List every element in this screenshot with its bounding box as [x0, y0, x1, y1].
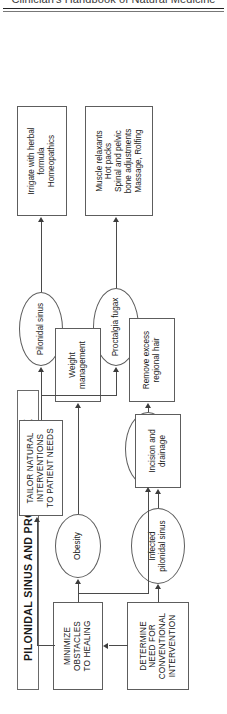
connector-determine-to-minimize: [109, 645, 128, 646]
node-remove-excess-hair-line1: Remove excess: [142, 331, 152, 389]
node-incision-drainage: Incision and drainage: [135, 414, 181, 488]
arrowhead-tailor-to-pilonidal-natural: [38, 367, 44, 372]
arrowhead-tailor-to-proctalgia: [113, 367, 119, 372]
connector-minimize-branch-horizontal: [148, 492, 149, 594]
node-tailor-natural-line1: TAILOR NATURAL: [26, 433, 36, 504]
arrowhead-infected-to-incision: [155, 489, 161, 494]
node-proctalgia-fugax-label: Proctalgia fugax: [111, 298, 121, 357]
connector-minimize-branch-vertical: [78, 593, 148, 594]
node-tailor-natural-line2: INTERVENTIONS: [36, 434, 46, 502]
node-obesity: Obesity: [55, 514, 101, 578]
node-irrigate-herbal: Irrigate with herbal formula Homeopathic…: [17, 106, 67, 216]
node-incision-drainage-line2: drainage: [158, 435, 168, 467]
node-infected-pilonidal-sinus-line2: pilonidal sinus: [158, 520, 168, 571]
connector-pilonidal-hair-to-remove: [148, 408, 149, 412]
arrowhead-minimize-to-pilonidal-hair: [145, 487, 151, 492]
node-irrigate-herbal-line1: Irrigate with herbal: [27, 127, 37, 194]
arrowhead-minimize-to-obesity: [75, 579, 81, 584]
node-proctalgia-treatments-line5: Massage, Rolfing: [133, 129, 143, 192]
node-pilonidal-sinus-natural-label: Pilonidal sinus: [36, 303, 46, 355]
node-minimize-obstacles: MINIMIZE OBSTACLES TO HEALING: [53, 602, 103, 690]
node-proctalgia-treatments-line1: Muscle relaxants: [94, 130, 104, 191]
node-weight-management: Weight management: [55, 328, 101, 402]
connector-pilonidal-natural-to-irrigate: [41, 222, 42, 292]
running-header: Clinician's Handbook of Natural Medicine: [0, 0, 227, 7]
node-tailor-natural: TAILOR NATURAL INTERVENTIONS TO PATIENT …: [19, 420, 63, 516]
connector-infected-to-incision: [158, 494, 159, 508]
node-incision-drainage-line1: Incision and: [148, 429, 158, 473]
arrowhead-minimize-to-tailor: [34, 517, 40, 522]
arrowhead-determine-to-infected: [155, 584, 161, 589]
node-proctalgia-treatments-line4: bone adjustments: [123, 129, 133, 194]
node-proctalgia-treatments: Muscle relaxants Hot packs Spinal and pe…: [85, 106, 153, 216]
node-tailor-natural-line3: TO PATIENT NEEDS: [45, 428, 55, 508]
node-infected-pilonidal-sinus-line1: Infected: [148, 531, 158, 560]
diagram-stage: PILONIDAL SINUS AND PROCTALGIA FUGAX DET…: [9, 12, 219, 702]
diagram-canvas: PILONIDAL SINUS AND PROCTALGIA FUGAX DET…: [9, 12, 219, 702]
node-irrigate-herbal-line3: Homeopathics: [46, 135, 56, 187]
header-rule: [3, 8, 224, 9]
node-obesity-label: Obesity: [73, 532, 83, 560]
arrowhead-determine-to-minimize: [103, 643, 108, 649]
connector-minimize-to-tailor-vertical: [37, 645, 55, 646]
node-infected-pilonidal-sinus: Infected pilonidal sinus: [131, 508, 185, 584]
node-minimize-obstacles-line3: TO HEALING: [82, 621, 92, 672]
arrowhead-proctalgia-to-treatments: [113, 217, 119, 222]
node-proctalgia-treatments-line3: Spinal and pelvic: [114, 130, 124, 192]
node-remove-excess-hair: Remove excess regional hair: [129, 318, 175, 402]
node-remove-excess-hair-line2: regional hair: [152, 337, 162, 382]
connector-obesity-to-weight: [78, 408, 79, 514]
node-determine-need: DETERMINE NEED FOR CONVENTIONAL INTERVEN…: [127, 602, 189, 690]
node-determine-need-line1: DETERMINE: [138, 621, 148, 671]
connector-tailor-branch-horizontal: [116, 372, 117, 396]
connector-minimize-to-tailor-horizontal: [37, 522, 38, 646]
connector-proctalgia-to-treatments: [116, 222, 117, 288]
node-irrigate-herbal-line2: formula: [37, 147, 47, 174]
node-proctalgia-treatments-line2: Hot packs: [104, 143, 114, 179]
arrowhead-pilonidal-natural-to-irrigate: [38, 217, 44, 222]
arrowhead-obesity-to-weight: [75, 403, 81, 408]
node-weight-management-line1: Weight: [68, 352, 78, 377]
connector-determine-to-infected: [158, 589, 159, 602]
node-determine-need-line4: INTERVENTION: [167, 615, 177, 678]
node-determine-need-line3: CONVENTIONAL: [158, 613, 168, 679]
node-minimize-obstacles-line2: OBSTACLES: [73, 621, 83, 671]
node-minimize-obstacles-line1: MINIMIZE: [63, 627, 73, 665]
arrowhead-pilonidal-hair-to-remove: [145, 403, 151, 408]
connector-tailor-branch-vertical: [41, 395, 116, 396]
node-weight-management-line2: management: [78, 341, 88, 389]
node-determine-need-line2: NEED FOR: [148, 624, 158, 668]
connector-tailor-to-pilonidal-natural: [41, 372, 42, 420]
